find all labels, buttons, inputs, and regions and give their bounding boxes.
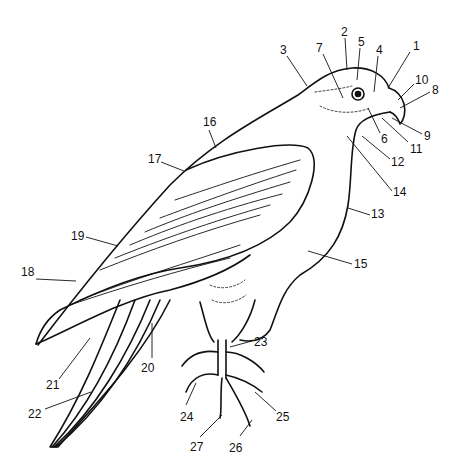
bird-topography-diagram: 1234567891011121314151617181920212223242… <box>0 0 464 476</box>
label-10: 10 <box>415 74 428 86</box>
leader-line-27 <box>200 415 222 437</box>
leader-line-17 <box>161 162 184 171</box>
leader-line-6 <box>368 108 380 133</box>
label-15: 15 <box>354 258 367 270</box>
leader-line-2 <box>345 38 347 70</box>
leader-line-8 <box>400 92 430 108</box>
beak <box>389 88 405 124</box>
label-22: 22 <box>28 408 41 420</box>
leader-line-24 <box>186 383 196 405</box>
label-17: 17 <box>148 153 161 165</box>
label-16: 16 <box>203 116 216 128</box>
label-12: 12 <box>391 156 404 168</box>
label-8: 8 <box>432 84 439 96</box>
label-13: 13 <box>371 208 384 220</box>
label-7: 7 <box>316 42 323 54</box>
label-1: 1 <box>413 40 420 52</box>
leader-line-18 <box>36 279 76 281</box>
label-23: 23 <box>254 336 267 348</box>
leader-line-13 <box>348 208 370 215</box>
label-19: 19 <box>71 230 84 242</box>
leader-line-3 <box>287 56 307 86</box>
leader-line-5 <box>357 48 360 80</box>
label-9: 9 <box>424 130 431 142</box>
chest-outline <box>240 112 390 341</box>
leader-line-19 <box>86 237 118 246</box>
label-4: 4 <box>376 44 383 56</box>
leader-line-10 <box>398 84 414 100</box>
label-25: 25 <box>276 411 289 423</box>
leader-line-1 <box>388 52 410 88</box>
leader-line-15 <box>308 251 352 264</box>
raptor-line-drawing <box>0 0 464 476</box>
leader-line-25 <box>255 392 276 411</box>
label-24: 24 <box>180 411 193 423</box>
label-26: 26 <box>229 442 242 454</box>
label-20: 20 <box>141 362 154 374</box>
leader-line-21 <box>59 338 90 379</box>
label-18: 18 <box>21 266 34 278</box>
label-3: 3 <box>280 44 287 56</box>
label-11: 11 <box>410 143 422 155</box>
label-6: 6 <box>381 133 388 145</box>
leader-line-26 <box>240 420 252 436</box>
label-5: 5 <box>358 36 365 48</box>
label-14: 14 <box>393 186 406 198</box>
wing-outline <box>36 145 314 344</box>
talons <box>182 351 264 426</box>
label-27: 27 <box>190 441 203 453</box>
label-2: 2 <box>341 26 348 38</box>
label-21: 21 <box>46 379 59 391</box>
leader-line-16 <box>209 130 216 148</box>
leg <box>218 340 226 378</box>
